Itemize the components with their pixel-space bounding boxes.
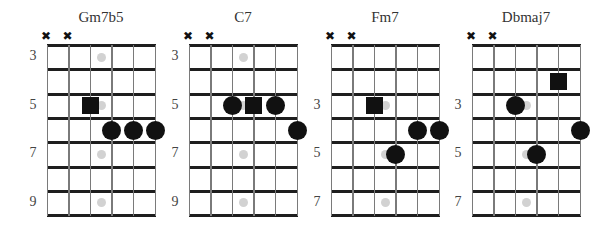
fret-line (472, 141, 581, 144)
muted-string-x-icon: ✖ (324, 30, 336, 42)
string-line (331, 45, 333, 216)
string-line (352, 45, 354, 216)
fretboard-grid (47, 45, 155, 215)
fret-number-label: 3 (25, 48, 41, 64)
fret-inlay-dot (239, 150, 248, 159)
fret-line (189, 93, 298, 96)
string-line (558, 45, 560, 216)
string-line (395, 45, 397, 216)
fret-number-label: 7 (25, 145, 41, 161)
fret-number-label: 9 (167, 194, 183, 210)
muted-string-x-icon: ✖ (465, 30, 477, 42)
chord-tone-dot (102, 121, 121, 140)
string-line (275, 45, 277, 216)
fret-line (47, 214, 156, 217)
fret-number-label: 3 (309, 97, 325, 113)
fret-line (472, 214, 581, 217)
chord-tone-dot (408, 121, 427, 140)
fret-line (47, 93, 156, 96)
fret-line (47, 190, 156, 193)
fret-inlay-dot (97, 53, 106, 62)
fretboard-grid (189, 45, 297, 215)
root-note-square (245, 97, 262, 114)
fret-line (472, 117, 581, 120)
fret-number-label: 9 (25, 194, 41, 210)
chord-tone-dot (527, 145, 546, 164)
chord-tone-dot (288, 121, 307, 140)
fret-number-label: 5 (309, 145, 325, 161)
chord-title: Dbmaj7 (466, 9, 586, 26)
chord-tone-dot (124, 121, 143, 140)
string-line (90, 45, 92, 216)
muted-string-x-icon: ✖ (62, 30, 74, 42)
fret-number-label: 7 (450, 194, 466, 210)
root-note-square (366, 97, 383, 114)
fret-inlay-dot (381, 198, 390, 207)
muted-string-x-icon: ✖ (182, 30, 194, 42)
fret-line (189, 166, 298, 169)
fret-line (189, 68, 298, 71)
fret-inlay-dot (97, 198, 106, 207)
fretboard-grid (331, 45, 439, 215)
string-line (210, 45, 212, 216)
string-line (472, 45, 474, 216)
fret-number-label: 5 (25, 97, 41, 113)
string-line (232, 45, 234, 216)
fret-line (331, 117, 440, 120)
fret-number-label: 3 (450, 97, 466, 113)
fret-line (472, 68, 581, 71)
string-line (374, 45, 376, 216)
fret-line (189, 190, 298, 193)
fret-line (331, 68, 440, 71)
chord-tone-dot (386, 145, 405, 164)
chord-title: C7 (183, 9, 303, 26)
fretboard-grid (472, 45, 580, 215)
fret-line (47, 166, 156, 169)
fret-inlay-dot (97, 150, 106, 159)
fret-inlay-dot (522, 198, 531, 207)
fret-line (189, 141, 298, 144)
string-line (68, 45, 70, 216)
fret-line (472, 166, 581, 169)
fret-line (331, 44, 440, 47)
muted-string-x-icon: ✖ (487, 30, 499, 42)
string-line (47, 45, 49, 216)
fret-inlay-dot (239, 198, 248, 207)
chord-tone-dot (571, 121, 590, 140)
fret-line (331, 190, 440, 193)
chord-tone-dot (266, 96, 285, 115)
fret-line (189, 117, 298, 120)
root-note-square (550, 73, 567, 90)
string-line (253, 45, 255, 216)
chord-tone-dot (506, 96, 525, 115)
fret-number-label: 7 (167, 145, 183, 161)
muted-string-x-icon: ✖ (40, 30, 52, 42)
string-line (536, 45, 538, 216)
fret-line (331, 214, 440, 217)
muted-string-x-icon: ✖ (346, 30, 358, 42)
fret-line (47, 44, 156, 47)
fret-number-label: 7 (309, 194, 325, 210)
chord-tone-dot (430, 121, 449, 140)
fret-line (472, 190, 581, 193)
chord-tone-dot (223, 96, 242, 115)
fret-number-label: 3 (167, 48, 183, 64)
fret-inlay-dot (239, 53, 248, 62)
fret-line (331, 141, 440, 144)
fret-number-label: 5 (450, 145, 466, 161)
fret-line (47, 117, 156, 120)
fret-line (472, 93, 581, 96)
string-line (189, 45, 191, 216)
string-line (515, 45, 517, 216)
fret-line (47, 68, 156, 71)
chord-title: Fm7 (325, 9, 445, 26)
fret-line (47, 141, 156, 144)
muted-string-x-icon: ✖ (204, 30, 216, 42)
fret-number-label: 5 (167, 97, 183, 113)
fret-line (189, 44, 298, 47)
chord-tone-dot (146, 121, 165, 140)
fret-line (472, 44, 581, 47)
fret-line (331, 93, 440, 96)
string-line (493, 45, 495, 216)
root-note-square (82, 97, 99, 114)
